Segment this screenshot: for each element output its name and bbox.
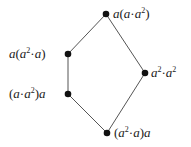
node-top [103,11,110,18]
label-top: a(a·a2) [113,7,150,20]
label-right: a2·a2 [151,66,176,79]
node-bottom [104,130,111,137]
edge-top-right [106,14,145,73]
label-left-lower: (a·a2)a [9,87,46,100]
node-right [142,70,149,77]
node-left-lower [65,91,72,98]
label-left-upper: a(a2·a) [9,47,46,60]
node-left-upper [65,51,72,58]
edge-top-left-upper [68,14,106,54]
edge-right-bottom [107,73,145,133]
edge-left-lower-bottom [68,94,107,133]
label-bottom: (a2·a)a [114,126,151,139]
